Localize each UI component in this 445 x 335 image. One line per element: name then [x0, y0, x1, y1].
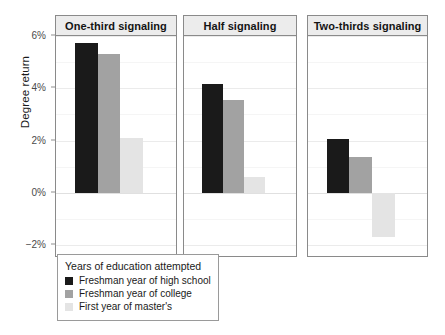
bar	[223, 100, 244, 193]
gridline	[184, 245, 296, 246]
legend-swatch	[65, 277, 73, 285]
gridline	[56, 36, 176, 37]
y-axis-tick-label: −2%	[4, 239, 46, 250]
panel-header: One-third signaling	[56, 16, 176, 36]
chart-panel: Half signaling	[183, 15, 297, 257]
gridline	[184, 62, 296, 63]
panel-header: Half signaling	[184, 16, 296, 36]
panel-title: Half signaling	[204, 20, 277, 32]
zero-gridline	[308, 193, 427, 194]
legend-swatch	[65, 290, 73, 298]
legend-label: First year of master's	[79, 301, 172, 312]
bar	[327, 139, 350, 193]
facet-bar-chart: Degree return 6%4%2%0%−2% One-third sign…	[0, 0, 445, 335]
legend-label: Freshman year of high school	[79, 275, 211, 286]
chart-panel: Two-thirds signaling	[307, 15, 428, 257]
gridline	[308, 62, 427, 63]
legend-entry: Freshman year of high school	[65, 275, 211, 286]
bar	[202, 84, 223, 192]
legend-title: Years of education attempted	[65, 260, 211, 272]
legend-label: Freshman year of college	[79, 288, 192, 299]
legend-swatch	[65, 303, 73, 311]
gridline	[184, 219, 296, 220]
gridline	[308, 88, 427, 89]
y-axis-tick-label: 2%	[4, 134, 46, 145]
gridline	[308, 245, 427, 246]
chart-panel: One-third signaling	[55, 15, 177, 257]
zero-gridline	[56, 193, 176, 194]
legend-entry: First year of master's	[65, 301, 211, 312]
legend-entry-group: Freshman year of high schoolFreshman yea…	[65, 275, 211, 312]
bar	[244, 177, 265, 193]
bar	[349, 157, 372, 192]
zero-gridline	[184, 193, 296, 194]
panel-title: Two-thirds signaling	[314, 20, 422, 32]
gridline	[308, 36, 427, 37]
panel-header: Two-thirds signaling	[308, 16, 427, 36]
bar	[372, 193, 395, 237]
plot-area	[184, 36, 296, 256]
panel-title: One-third signaling	[65, 20, 167, 32]
bar	[98, 54, 121, 192]
gridline	[308, 114, 427, 115]
plot-area	[56, 36, 176, 256]
bar	[120, 138, 143, 193]
legend: Years of education attempted Freshman ye…	[57, 254, 219, 321]
gridline	[308, 219, 427, 220]
gridline	[56, 245, 176, 246]
gridline	[56, 219, 176, 220]
y-axis-tick-label: 4%	[4, 82, 46, 93]
y-axis-tick-label: 0%	[4, 186, 46, 197]
y-axis-tick-label: 6%	[4, 30, 46, 41]
bar	[75, 43, 98, 193]
gridline	[184, 36, 296, 37]
legend-entry: Freshman year of college	[65, 288, 211, 299]
plot-area	[308, 36, 427, 256]
